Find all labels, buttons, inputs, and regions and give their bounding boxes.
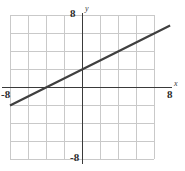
y-min-tick-label: -8 [70, 152, 79, 163]
x-min-tick-label: -8 [1, 89, 10, 100]
plotted-line [10, 25, 170, 105]
graph-figure: 8 -8 -8 8 y x [0, 0, 185, 171]
x-max-tick-label: 8 [167, 89, 173, 100]
y-axis-label: y [85, 5, 89, 13]
x-axis-label: x [174, 80, 178, 88]
coordinate-plane-svg [0, 0, 185, 171]
y-max-tick-label: 8 [70, 8, 76, 19]
